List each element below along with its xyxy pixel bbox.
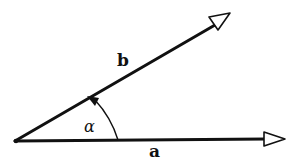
- vector-b-shaft: [15, 25, 215, 141]
- label-b: b: [117, 50, 129, 70]
- label-alpha: α: [84, 117, 95, 136]
- angle-arc-path: [95, 100, 118, 140]
- vector-a-arrowhead-icon: [264, 132, 285, 146]
- vector-b: [15, 13, 230, 141]
- origin-point: [14, 139, 18, 143]
- vector-a-shaft: [15, 139, 266, 141]
- label-a: a: [149, 141, 160, 161]
- vector-angle-diagram: b α a: [0, 0, 298, 164]
- angle-arc-arrowhead-icon: [87, 96, 99, 106]
